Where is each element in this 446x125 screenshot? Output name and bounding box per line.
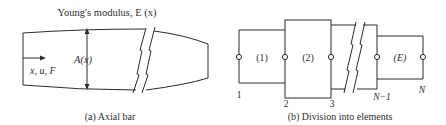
node-n-label: N: [418, 85, 426, 95]
arrow-right-icon: [40, 56, 46, 61]
node-n-minus-1-icon: [374, 54, 379, 59]
caption-a: (a) Axial bar: [85, 111, 136, 123]
node-3-label: 3: [330, 99, 335, 109]
element-e-label: (E): [394, 52, 407, 64]
node-n-minus-1-label: N−1: [372, 92, 391, 102]
axis-label: x, u, F: [29, 65, 56, 76]
panel-b-elements: (1) (2) (E) 1 2 3 N−1 N (b) Division int…: [236, 20, 425, 123]
node-2-icon: [282, 54, 287, 59]
node-n-icon: [420, 54, 425, 59]
bar-break-left-icon: [133, 28, 146, 93]
element-3-outline: [331, 25, 356, 89]
element-break-left-icon: [344, 22, 356, 93]
element-break-right-icon: [353, 22, 365, 93]
node-2-label: 2: [284, 99, 289, 109]
bar-right-outline: [146, 31, 208, 90]
node-1-icon: [236, 54, 241, 59]
youngs-modulus-label: Young's modulus, E (x): [58, 7, 157, 19]
element-1-label: (1): [256, 52, 268, 64]
panel-a-axial-bar: Young's modulus, E (x) A(x) x, u, F (a) …: [23, 7, 208, 123]
figure-canvas: Young's modulus, E (x) A(x) x, u, F (a) …: [0, 0, 446, 125]
node-1-label: 1: [237, 90, 242, 100]
arrow-up-icon: [85, 28, 90, 34]
caption-b: (b) Division into elements: [288, 111, 393, 123]
node-3-icon: [328, 54, 333, 59]
element-2-label: (2): [302, 52, 314, 64]
area-label: A(x): [73, 54, 93, 66]
